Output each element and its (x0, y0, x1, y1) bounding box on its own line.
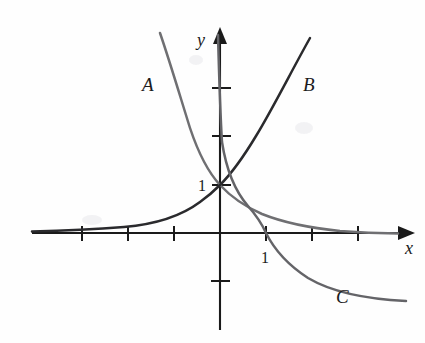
curve-label-b: B (303, 74, 315, 95)
y-axis-label: y (195, 30, 205, 50)
y-axis-arrowhead (213, 27, 227, 44)
graph-svg: A B C y x 1 1 (0, 0, 425, 343)
paper-smudge (82, 215, 102, 225)
curve-label-c: C (336, 286, 349, 307)
paper-smudge (189, 55, 203, 65)
figure-canvas: A B C y x 1 1 (0, 0, 425, 343)
paper-smudge (295, 122, 313, 134)
x-tick-label-1: 1 (261, 249, 269, 266)
curve-label-a: A (140, 74, 154, 95)
y-tick-label-1: 1 (198, 177, 206, 194)
x-axis-label: x (404, 238, 413, 258)
